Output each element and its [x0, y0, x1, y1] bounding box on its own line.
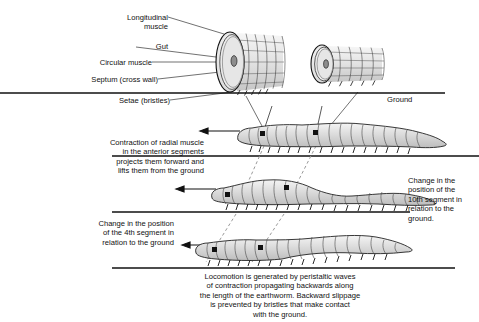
marked-segment-4	[260, 131, 265, 136]
annotation-contraction: Contraction of radial muscle in the ante…	[8, 138, 204, 176]
worm-frame-3	[196, 235, 412, 266]
label-longitudinal-muscle: Longitudinal muscle	[58, 13, 168, 32]
annotation-segment-10: Change in the position of the 10th segme…	[408, 176, 478, 223]
direction-arrow-1	[200, 128, 240, 134]
setae-leader-lines	[246, 92, 358, 126]
worm-frame-2	[212, 180, 436, 211]
marked-segment-4	[212, 247, 217, 252]
label-circular-muscle: Circular muscle	[48, 58, 152, 67]
marked-segment-10	[284, 185, 289, 190]
direction-arrow-2	[176, 186, 216, 192]
label-setae: Setae (bristles)	[60, 96, 170, 105]
label-gut: Gut	[78, 42, 168, 51]
annotation-segment-4: Change in the position of the 4th segmen…	[18, 219, 174, 247]
worm-frame-1	[238, 123, 447, 154]
label-ground: Ground	[387, 95, 447, 104]
diagram-canvas: Longitudinal muscle Gut Circular muscle …	[0, 0, 479, 322]
marked-segment-10	[258, 245, 263, 250]
extended-segment-cylinder	[311, 45, 384, 87]
caption-locomotion: Locomotion is generated by peristaltic w…	[155, 272, 405, 319]
bristles-frame-1	[250, 146, 410, 154]
marked-segment-10	[313, 130, 318, 135]
contracted-segment-cylinder	[216, 32, 285, 96]
label-septum: Septum (cross wall)	[28, 75, 158, 84]
bristles-frame-2	[226, 204, 408, 211]
marked-segment-4	[225, 192, 230, 197]
